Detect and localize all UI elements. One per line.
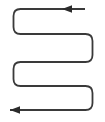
serpentine-path-svg <box>0 0 105 122</box>
serpentine-path-line <box>10 9 93 110</box>
bottom-left-arrowhead-icon <box>10 106 20 114</box>
top-left-arrowhead-icon <box>62 5 72 13</box>
serpentine-path-diagram <box>0 0 105 122</box>
